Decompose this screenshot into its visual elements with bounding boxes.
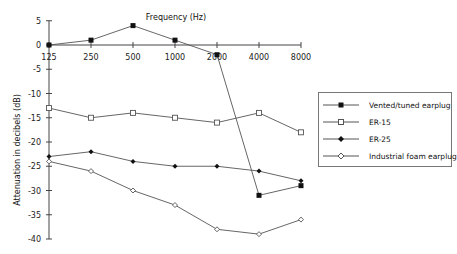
y-tick-label: -25 (28, 162, 41, 171)
filled-square-marker-icon (319, 99, 363, 111)
x-tick-label: 8000 (291, 53, 311, 62)
filled-diamond-marker-icon (215, 164, 220, 169)
y-tick-label: -40 (28, 235, 41, 244)
filled-square-marker-icon (47, 43, 52, 48)
x-tick-label: 125 (41, 53, 56, 62)
filled-square-marker-icon (89, 38, 94, 43)
y-tick-label: -20 (28, 138, 41, 147)
open-square-marker-icon (173, 115, 178, 120)
legend-item-er25: ER-25 (319, 133, 391, 145)
filled-square-marker-icon (131, 23, 136, 28)
legend-label: ER-25 (369, 135, 391, 144)
filled-square-marker-icon (257, 193, 262, 198)
y-tick-label: -30 (28, 187, 41, 196)
x-tick-label: 500 (125, 53, 140, 62)
legend-item-vented: Vented/tuned earplug (319, 99, 451, 111)
y-tick-label: -35 (28, 211, 41, 220)
filled-square-marker-icon (173, 38, 178, 43)
x-tick-label: 1000 (165, 53, 185, 62)
x-tick-label: 4000 (249, 53, 269, 62)
y-tick-label: -15 (28, 114, 41, 123)
legend-label: Industrial foam earplug (369, 152, 457, 161)
legend-item-foam: Industrial foam earplug (319, 150, 457, 162)
open-square-marker-icon (47, 106, 52, 111)
filled-diamond-marker-icon (131, 159, 136, 164)
open-square-marker-icon (257, 110, 262, 115)
open-diamond-marker-icon (47, 159, 52, 164)
open-diamond-marker-icon (215, 227, 220, 232)
y-tick-label: 0 (36, 41, 41, 50)
filled-diamond-marker-icon (89, 149, 94, 154)
x-tick-label: 250 (83, 53, 98, 62)
open-diamond-marker-icon (319, 150, 363, 162)
filled-diamond-marker-icon (257, 169, 262, 174)
y-tick-label: -5 (33, 65, 41, 74)
open-diamond-marker-icon (257, 232, 262, 237)
open-square-marker-icon (215, 120, 220, 125)
open-square-marker-icon (299, 130, 304, 135)
legend-label: Vented/tuned earplug (369, 101, 451, 110)
legend: Vented/tuned earplug ER-15 ER-25 Industr… (318, 92, 452, 167)
y-tick-label: 5 (36, 17, 41, 26)
y-tick-label: -10 (28, 90, 41, 99)
open-diamond-marker-icon (173, 203, 178, 208)
open-square-marker-icon (89, 115, 94, 120)
open-square-marker-icon (131, 110, 136, 115)
open-diamond-marker-icon (299, 217, 304, 222)
filled-square-marker-icon (299, 183, 304, 188)
open-square-marker-icon (319, 116, 363, 128)
legend-item-er15: ER-15 (319, 116, 391, 128)
filled-diamond-marker-icon (299, 178, 304, 183)
legend-label: ER-15 (369, 118, 391, 127)
open-diamond-marker-icon (89, 169, 94, 174)
filled-diamond-marker-icon (173, 164, 178, 169)
x-axis-title: Frequency (Hz) (146, 13, 206, 22)
y-axis-title: Attenuation in decibels (dB) (13, 94, 22, 206)
filled-square-marker-icon (215, 52, 220, 57)
open-diamond-marker-icon (131, 188, 136, 193)
filled-diamond-marker-icon (319, 133, 363, 145)
